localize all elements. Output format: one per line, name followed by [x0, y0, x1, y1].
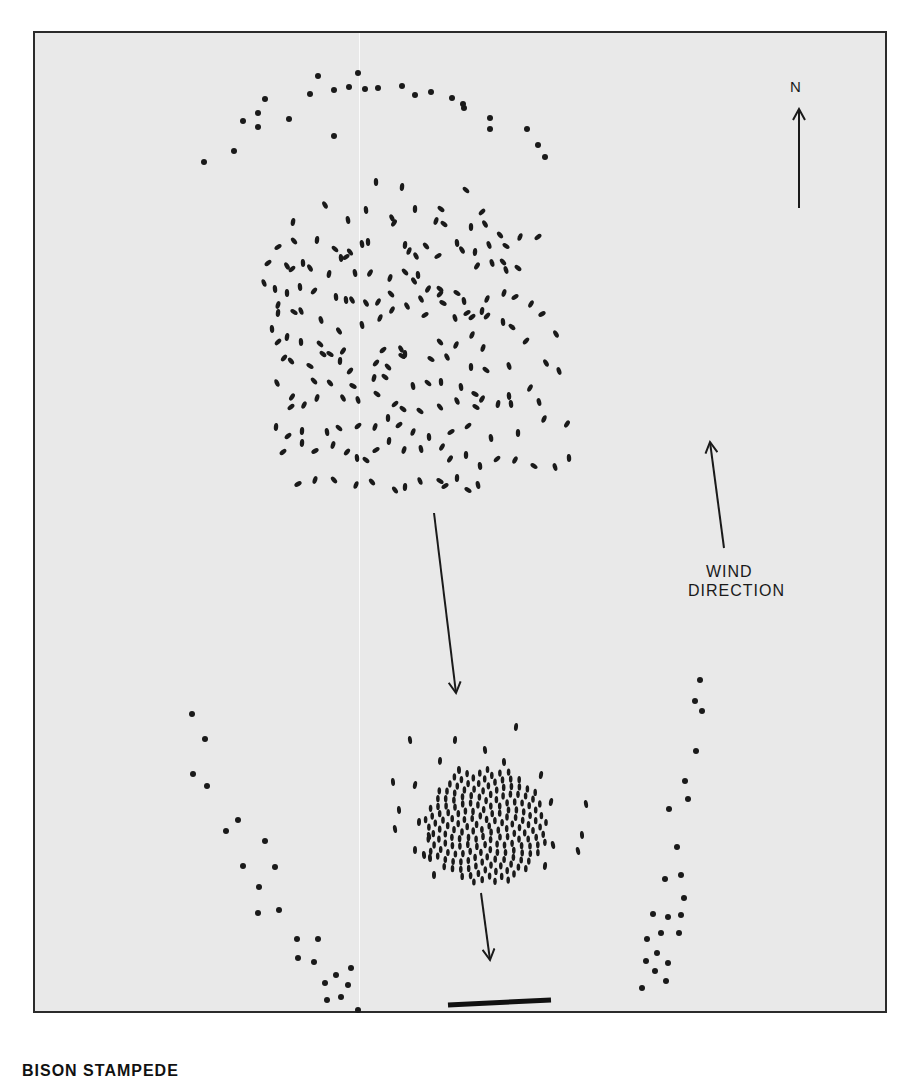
bison-mark: [452, 826, 456, 833]
wolf-pack-positions: [189, 70, 705, 1013]
bison-mark: [498, 803, 502, 810]
bison-mark: [417, 294, 425, 303]
wolf-dot: [665, 914, 671, 920]
bison-mark: [335, 424, 344, 433]
bison-mark: [474, 836, 478, 843]
bison-mark: [489, 829, 493, 836]
wolf-dot: [331, 87, 337, 93]
bison-mark: [338, 357, 343, 365]
bison-mark: [366, 238, 371, 246]
bison-mark: [333, 293, 338, 301]
bison-mark: [501, 792, 505, 799]
bison-mark: [417, 818, 421, 826]
wolf-dot: [658, 930, 664, 936]
bison-mark: [379, 346, 388, 355]
bison-mark: [427, 824, 431, 831]
bison-mark: [354, 422, 363, 431]
bison-mark: [325, 350, 334, 358]
bison-mark: [458, 245, 466, 254]
bison-mark: [474, 862, 478, 869]
wolf-dot: [678, 912, 684, 918]
bison-mark: [463, 486, 472, 494]
bison-mark: [444, 840, 448, 847]
bison-mark: [452, 797, 456, 804]
bison-mark: [359, 321, 365, 330]
bison-mark: [536, 849, 540, 856]
bison-mark: [470, 815, 474, 822]
bison-mark: [513, 798, 517, 805]
bison-mark: [424, 379, 433, 388]
bison-mark: [505, 813, 509, 820]
bison-mark: [487, 782, 491, 789]
bison-mark: [391, 400, 400, 409]
bison-mark: [387, 274, 394, 283]
bison-mark: [477, 462, 482, 470]
bison-mark: [517, 232, 524, 241]
bison-mark: [326, 270, 332, 279]
bison-mark: [413, 846, 417, 854]
wolf-dot: [412, 92, 418, 98]
bison-mark: [472, 774, 476, 781]
bison-mark: [468, 330, 475, 339]
bison-mark: [521, 817, 525, 824]
bison-mark: [433, 252, 442, 260]
north-label: N: [790, 78, 802, 95]
bison-mark: [372, 423, 379, 432]
bison-mark: [473, 261, 481, 270]
bison-mark: [470, 390, 479, 398]
bison-mark: [261, 278, 268, 287]
herd-movement-arrow-2: [481, 893, 490, 960]
bison-mark: [502, 784, 506, 791]
bison-mark: [460, 873, 464, 880]
bison-mark: [289, 308, 298, 316]
bison-mark: [286, 403, 295, 411]
herd-movement-arrow-1: [434, 513, 456, 693]
bison-mark: [500, 819, 504, 826]
wolf-dot: [322, 980, 328, 986]
bison-mark: [387, 290, 396, 299]
bison-mark: [428, 854, 432, 862]
bison-mark: [429, 805, 433, 812]
bison-mark: [461, 297, 467, 306]
bison-mark: [485, 853, 489, 860]
bison-mark: [478, 794, 482, 801]
bison-mark: [500, 318, 505, 326]
bison-mark: [345, 216, 351, 225]
bison-mark: [484, 866, 488, 873]
bison-mark: [446, 428, 455, 436]
wolf-dot: [449, 95, 455, 101]
bison-mark: [335, 326, 343, 335]
bison-mark: [556, 367, 563, 376]
bison-mark: [439, 378, 444, 386]
bison-mark: [376, 313, 383, 322]
bison-mark: [306, 263, 314, 272]
bison-mark: [505, 867, 509, 874]
bison-mark: [354, 454, 359, 462]
wolf-dot: [240, 118, 246, 124]
bison-mark: [458, 843, 462, 850]
bison-mark: [490, 810, 494, 817]
wolf-dot: [487, 126, 493, 132]
herd-before-stampede: [261, 178, 572, 495]
bison-mark: [509, 776, 513, 783]
bison-mark: [444, 795, 448, 802]
bison-mark: [529, 462, 538, 470]
bison-mark: [459, 866, 463, 873]
bison-mark: [432, 841, 436, 848]
bison-mark: [469, 800, 473, 807]
bison-mark: [426, 433, 431, 441]
bison-mark: [454, 239, 459, 247]
bison-mark: [518, 824, 522, 831]
wolf-dot: [348, 965, 354, 971]
bison-mark: [443, 352, 450, 361]
bison-mark: [452, 314, 459, 323]
wolf-dot: [338, 994, 344, 1000]
bison-mark: [520, 842, 524, 849]
bison-mark: [407, 736, 412, 745]
bison-mark: [457, 766, 461, 774]
wolf-dot: [331, 133, 337, 139]
bison-mark: [527, 858, 531, 865]
bison-mark: [552, 463, 558, 472]
bison-mark: [479, 307, 485, 316]
